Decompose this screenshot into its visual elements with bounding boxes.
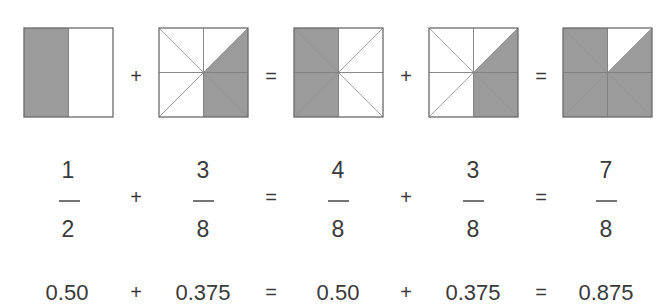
half-square (24, 28, 113, 117)
decimal-value: 0.375 (445, 280, 500, 305)
plus-operator: + (400, 186, 412, 208)
fraction-1-2: 1 2 (59, 157, 80, 242)
equals-operator: = (265, 281, 277, 303)
fraction-denominator: 8 (197, 216, 210, 242)
fraction-numerator: 3 (467, 157, 480, 183)
decimal-value: 0.50 (46, 280, 89, 305)
fraction-3-8: 3 8 (463, 157, 484, 242)
fraction-numerator: 3 (197, 157, 210, 183)
plus-operator: + (130, 186, 142, 208)
plus-operator: + (130, 65, 142, 87)
fraction-numerator: 7 (600, 157, 613, 183)
three-eighths-square-b (429, 28, 518, 117)
decimal-value: 0.875 (578, 280, 633, 305)
four-eighths-square (294, 28, 383, 117)
equals-operator: = (535, 186, 547, 208)
seven-eighths-square (563, 28, 652, 117)
fraction-addition-diagram: + = + = 1 2 + 3 8 = 4 8 + 3 8 = 7 8 0.50… (0, 0, 668, 306)
decimal-value: 0.50 (317, 280, 360, 305)
fraction-4-8: 4 8 (328, 157, 349, 242)
fraction-denominator: 2 (62, 216, 75, 242)
fraction-denominator: 8 (467, 216, 480, 242)
fraction-3-8: 3 8 (193, 157, 214, 242)
fraction-denominator: 8 (332, 216, 345, 242)
equals-operator: = (535, 281, 547, 303)
three-eighths-square-a (159, 28, 248, 117)
plus-operator: + (130, 281, 142, 303)
squares-row (24, 28, 652, 117)
decimal-value: 0.375 (175, 280, 230, 305)
shaded-region-left-half (24, 28, 69, 117)
equals-operator: = (265, 186, 277, 208)
plus-operator: + (400, 281, 412, 303)
plus-operator: + (400, 65, 412, 87)
equals-operator: = (265, 65, 277, 87)
fraction-denominator: 8 (600, 216, 613, 242)
fraction-numerator: 1 (62, 157, 75, 183)
fraction-numerator: 4 (332, 157, 345, 183)
equals-operator: = (535, 65, 547, 87)
fraction-7-8: 7 8 (596, 157, 617, 242)
